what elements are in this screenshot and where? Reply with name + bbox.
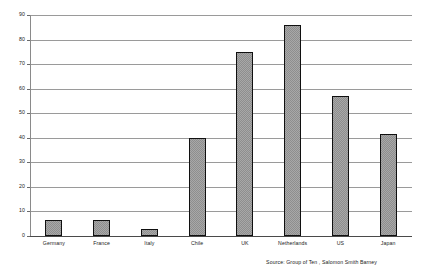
bar-uk xyxy=(236,52,253,236)
y-axis-tick: 10 xyxy=(0,208,25,214)
y-axis-tick-label: 0 xyxy=(3,233,25,238)
y-axis-tick-label: 20 xyxy=(3,184,25,189)
y-axis-tick: 20 xyxy=(0,184,25,190)
bar-us xyxy=(332,96,349,236)
y-axis-tick: 40 xyxy=(0,135,25,141)
bar-netherlands xyxy=(284,25,301,236)
y-axis-tick: 30 xyxy=(0,159,25,165)
y-axis-tick: 50 xyxy=(0,110,25,116)
bar-chart: 0102030405060708090 GermanyFranceItalyCh… xyxy=(0,0,423,274)
y-axis-tick: 60 xyxy=(0,86,25,92)
bars-group xyxy=(30,15,412,236)
y-axis-tick-label: 80 xyxy=(3,37,25,42)
bar-italy xyxy=(141,229,158,236)
y-axis-tick: 70 xyxy=(0,61,25,67)
y-axis-tick: 0 xyxy=(0,233,25,239)
y-axis-tick-label: 90 xyxy=(3,12,25,17)
y-axis-tick-label: 60 xyxy=(3,86,25,91)
bar-chile xyxy=(189,138,206,236)
bar-japan xyxy=(380,134,397,236)
y-axis-tick-label: 30 xyxy=(3,159,25,164)
y-axis-tick-label: 10 xyxy=(3,208,25,213)
y-axis-tick-label: 70 xyxy=(3,61,25,66)
y-axis-tick: 90 xyxy=(0,12,25,18)
y-axis-tick-label: 50 xyxy=(3,110,25,115)
y-axis-tick-label: 40 xyxy=(3,135,25,140)
bar-germany xyxy=(45,220,62,236)
y-axis-tick: 80 xyxy=(0,37,25,43)
bar-france xyxy=(93,220,110,236)
x-axis-label-japan: Japan xyxy=(358,240,418,246)
x-axis-line xyxy=(30,236,412,237)
source-note: Source: Group of Ten , Salomon Smith Bar… xyxy=(266,259,377,265)
